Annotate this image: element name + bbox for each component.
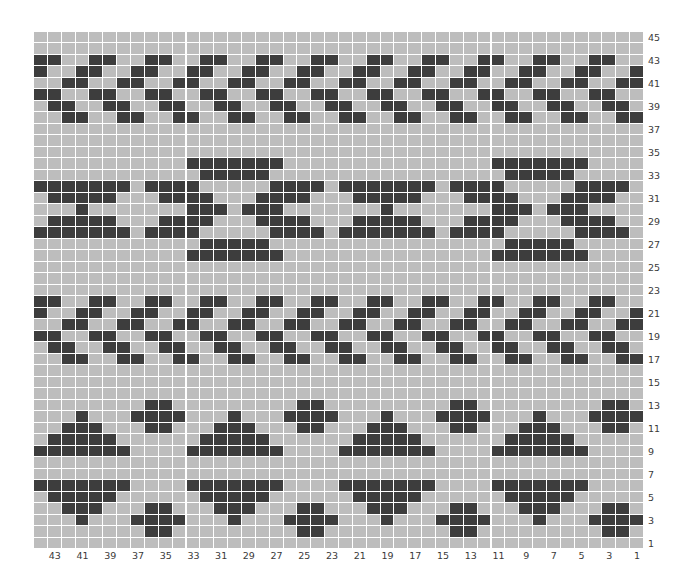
stitch-cell-light: [492, 319, 506, 330]
stitch-cell-dark: [505, 250, 519, 261]
stitch-cell-dark: [34, 181, 48, 192]
stitch-cell-light: [256, 135, 270, 146]
stitch-cell-light: [145, 193, 159, 204]
stitch-cell-light: [561, 89, 575, 100]
stitch-cell-light: [394, 331, 408, 342]
stitch-cell-light: [242, 526, 256, 537]
stitch-cell-light: [394, 285, 408, 296]
stitch-cell-light: [242, 400, 256, 411]
stitch-cell-light: [547, 469, 561, 480]
stitch-cell-light: [519, 193, 533, 204]
stitch-cell-light: [630, 457, 644, 468]
stitch-cell-light: [34, 411, 48, 422]
stitch-cell-light: [616, 296, 630, 307]
stitch-cell-light: [76, 365, 90, 376]
stitch-cell-dark: [561, 170, 575, 181]
stitch-cell-light: [145, 446, 159, 457]
stitch-cell-light: [339, 170, 353, 181]
stitch-cell-light: [214, 319, 228, 330]
stitch-cell-dark: [519, 503, 533, 514]
stitch-cell-light: [547, 377, 561, 388]
stitch-cell-light: [464, 89, 478, 100]
stitch-cell-light: [464, 250, 478, 261]
stitch-cell-light: [547, 457, 561, 468]
stitch-cell-light: [436, 434, 450, 445]
stitch-cell-light: [436, 492, 450, 503]
stitch-cell-dark: [117, 446, 131, 457]
stitch-cell-light: [533, 319, 547, 330]
stitch-cell-dark: [297, 515, 311, 526]
stitch-cell-light: [436, 503, 450, 514]
stitch-cell-light: [242, 296, 256, 307]
stitch-cell-dark: [394, 354, 408, 365]
stitch-cell-light: [436, 32, 450, 43]
stitch-cell-light: [533, 112, 547, 123]
stitch-cell-light: [325, 170, 339, 181]
stitch-cell-light: [505, 377, 519, 388]
stitch-cell-light: [436, 239, 450, 250]
stitch-cell-dark: [519, 112, 533, 123]
stitch-cell-dark: [478, 216, 492, 227]
stitch-cell-dark: [367, 227, 381, 238]
stitch-cell-light: [76, 55, 90, 66]
stitch-cell-light: [422, 112, 436, 123]
stitch-cell-light: [284, 423, 298, 434]
stitch-cell-light: [602, 319, 616, 330]
stitch-cell-dark: [519, 204, 533, 215]
stitch-cell-light: [492, 43, 506, 54]
stitch-cell-light: [533, 400, 547, 411]
stitch-cell-dark: [311, 296, 325, 307]
stitch-cell-dark: [187, 66, 201, 77]
stitch-cell-light: [478, 503, 492, 514]
stitch-cell-light: [589, 342, 603, 353]
stitch-cell-dark: [561, 354, 575, 365]
stitch-cell-dark: [464, 503, 478, 514]
stitch-cell-light: [228, 285, 242, 296]
stitch-cell-light: [131, 239, 145, 250]
stitch-cell-light: [131, 170, 145, 181]
stitch-cell-light: [34, 273, 48, 284]
stitch-cell-light: [214, 66, 228, 77]
stitch-cell-dark: [34, 480, 48, 491]
stitch-cell-dark: [214, 239, 228, 250]
stitch-cell-light: [145, 273, 159, 284]
stitch-cell-light: [353, 124, 367, 135]
stitch-cell-dark: [505, 204, 519, 215]
stitch-cell-light: [353, 457, 367, 468]
stitch-cell-light: [200, 469, 214, 480]
stitch-cell-light: [311, 285, 325, 296]
stitch-cell-light: [187, 515, 201, 526]
stitch-cell-light: [89, 262, 103, 273]
stitch-cell-light: [62, 250, 76, 261]
stitch-cell-dark: [284, 216, 298, 227]
stitch-cell-light: [422, 262, 436, 273]
stitch-cell-light: [422, 503, 436, 514]
stitch-cell-light: [187, 365, 201, 376]
stitch-cell-light: [422, 273, 436, 284]
stitch-cell-light: [505, 469, 519, 480]
stitch-cell-dark: [297, 227, 311, 238]
stitch-cell-light: [187, 43, 201, 54]
stitch-cell-light: [284, 135, 298, 146]
stitch-cell-light: [159, 354, 173, 365]
stitch-cell-dark: [89, 296, 103, 307]
stitch-cell-dark: [173, 227, 187, 238]
stitch-cell-dark: [173, 101, 187, 112]
stitch-cell-light: [34, 147, 48, 158]
stitch-cell-light: [422, 78, 436, 89]
stitch-cell-light: [187, 285, 201, 296]
stitch-cell-dark: [131, 66, 145, 77]
stitch-cell-light: [34, 262, 48, 273]
stitch-cell-dark: [200, 250, 214, 261]
stitch-cell-light: [103, 319, 117, 330]
stitch-cell-light: [242, 147, 256, 158]
stitch-cell-light: [408, 204, 422, 215]
stitch-cell-light: [630, 526, 644, 537]
stitch-cell-light: [131, 492, 145, 503]
stitch-cell-light: [616, 216, 630, 227]
stitch-cell-light: [159, 492, 173, 503]
stitch-cell-light: [394, 388, 408, 399]
stitch-cell-dark: [228, 101, 242, 112]
row-label: 9: [648, 446, 654, 457]
stitch-cell-dark: [408, 354, 422, 365]
